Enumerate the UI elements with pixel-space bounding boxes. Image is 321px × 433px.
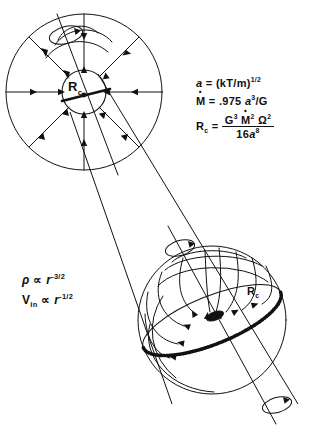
sound-speed-rhs: (kT/m) <box>216 77 251 89</box>
numerator-m-exp: 2 <box>251 113 255 120</box>
lower-rc-letter: R <box>247 285 255 297</box>
centrifugal-radius-lhs: R <box>196 120 204 132</box>
density-prop-sign: ∝ <box>33 273 42 287</box>
sound-speed-eq-sign: = <box>206 77 213 89</box>
numerator-omega: Ω <box>258 114 267 126</box>
sound-speed-exponent: 1/2 <box>251 76 261 83</box>
mass-rate-coefficient: .975 <box>219 95 242 107</box>
centrifugal-radius-lhs-sub: c <box>204 127 208 134</box>
infall-velocity-lhs-sub: in <box>30 300 37 309</box>
infall-velocity-power-law: Vin ∝ r-1/2 <box>22 292 73 309</box>
mass-rate-eq-sign: = <box>209 95 216 107</box>
lower-sphere-rc-label: Rc <box>247 285 259 299</box>
upper-rc-letter: R <box>68 79 78 94</box>
lower-rc-subscript: c <box>255 292 259 299</box>
sound-speed-equation: a = (kT/m)1/2 <box>196 76 261 89</box>
denominator-coefficient: 16 <box>236 128 249 140</box>
numerator-omega-exp: 2 <box>267 113 271 120</box>
density-lhs: ρ <box>22 273 30 287</box>
numerator-g-exp: 3 <box>234 113 238 120</box>
mass-rate-lhs: M <box>196 95 205 107</box>
centrifugal-radius-fraction: G3 M2 Ω2 16a8 <box>222 113 274 141</box>
numerator-mdot: M <box>241 114 250 127</box>
centrifugal-radius-denominator: 16a8 <box>222 126 274 140</box>
collapse-diagram <box>0 0 321 433</box>
upper-sphere-rc-label: Rc <box>68 79 82 97</box>
centrifugal-radius-equation: Rc = G3 M2 Ω2 16a8 <box>196 113 274 141</box>
centrifugal-radius-numerator: G3 M2 Ω2 <box>222 113 274 126</box>
infall-velocity-exponent: -1/2 <box>59 292 73 301</box>
denominator-var-exp: 8 <box>256 127 260 134</box>
numerator-g: G <box>225 114 234 126</box>
density-power-law: ρ ∝ r-3/2 <box>22 272 65 287</box>
infall-velocity-prop-sign: ∝ <box>41 293 50 307</box>
mass-accretion-rate-equation: M = .975 a3/G <box>196 94 268 107</box>
upper-rc-subscript: c <box>78 88 83 97</box>
mass-rate-over: /G <box>255 95 267 107</box>
density-exponent: -3/2 <box>51 272 65 281</box>
centrifugal-radius-eq-sign: = <box>212 120 219 132</box>
